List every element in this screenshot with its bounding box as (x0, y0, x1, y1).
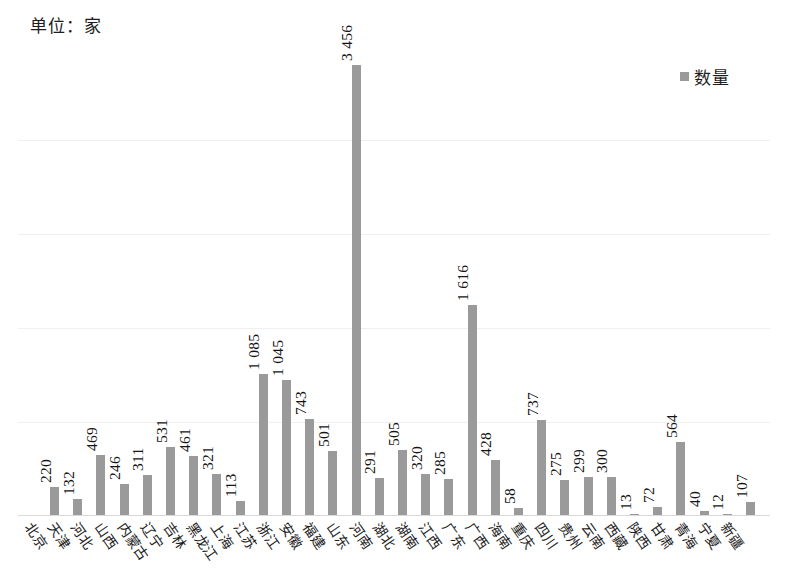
bar-group[interactable]: 12 (716, 46, 739, 516)
bar[interactable] (537, 420, 546, 516)
bar-value-label: 311 (129, 448, 147, 472)
bar[interactable] (328, 451, 337, 516)
bar-value-label: 275 (547, 452, 565, 476)
bar-value-label: 1 085 (245, 334, 263, 370)
bar-value-label: 246 (106, 456, 124, 480)
bar-value-label: 40 (686, 491, 704, 507)
bar[interactable] (607, 477, 616, 516)
bar-value-label: 72 (640, 487, 658, 503)
bar-group[interactable]: 72 (646, 46, 669, 516)
bar[interactable] (143, 475, 152, 516)
bar-value-label: 1 616 (454, 265, 472, 301)
bar-group[interactable]: 564 (669, 46, 692, 516)
bar[interactable] (444, 479, 453, 516)
bar-value-label: 469 (83, 427, 101, 451)
bar-value-label: 13 (617, 494, 635, 510)
bar-group[interactable]: 1 045 (275, 46, 298, 516)
bar-value-label: 737 (524, 392, 542, 416)
bar-value-label: 113 (222, 474, 240, 498)
bar-group[interactable]: 3 456 (345, 46, 368, 516)
bar[interactable] (584, 477, 593, 516)
bar-value-label: 505 (385, 422, 403, 446)
bar-group[interactable]: 321 (205, 46, 228, 516)
bar[interactable] (236, 501, 245, 516)
bar-group[interactable]: 1 085 (252, 46, 275, 516)
bar-group[interactable]: 469 (89, 46, 112, 516)
bar[interactable] (189, 456, 198, 516)
bar-group[interactable]: 107 (739, 46, 762, 516)
bar[interactable] (352, 65, 361, 516)
bar[interactable] (305, 419, 314, 516)
bar-value-label: 501 (315, 422, 333, 446)
bar[interactable] (421, 474, 430, 516)
bar-value-label: 320 (408, 446, 426, 470)
bar[interactable] (746, 502, 755, 516)
bar-group[interactable]: 40 (693, 46, 716, 516)
bar-group[interactable]: 320 (414, 46, 437, 516)
plot-area: 2201324692463115314613211131 0851 045743… (18, 46, 770, 516)
bar-group[interactable]: 311 (136, 46, 159, 516)
bar[interactable] (212, 474, 221, 516)
bar-group[interactable]: 246 (113, 46, 136, 516)
bar-group[interactable]: 275 (553, 46, 576, 516)
x-tick-label: 新疆 (733, 518, 756, 538)
bar-value-label: 132 (60, 471, 78, 495)
bar-value-label: 299 (570, 449, 588, 473)
bar[interactable] (120, 484, 129, 516)
x-axis-labels: 北京天津河北山西内蒙古辽宁吉林黑龙江上海江苏浙江安徽福建山东河南湖北湖南江西广东… (18, 518, 770, 584)
bar-group[interactable]: 501 (321, 46, 344, 516)
bar-value-label: 285 (431, 451, 449, 475)
bar[interactable] (375, 478, 384, 516)
bar-value-label: 3 456 (338, 24, 356, 60)
bar[interactable] (166, 447, 175, 516)
bar-value-label: 1 045 (269, 339, 287, 375)
bar-group[interactable]: 13 (623, 46, 646, 516)
bar-group[interactable]: 428 (484, 46, 507, 516)
bar-group[interactable]: 58 (507, 46, 530, 516)
unit-caption: 单位：家 (30, 12, 102, 37)
bar-value-label: 531 (153, 419, 171, 443)
bar-series: 2201324692463115314613211131 0851 045743… (18, 46, 770, 516)
bar-value-label: 743 (292, 391, 310, 415)
bar-value-label: 321 (199, 446, 217, 470)
bar[interactable] (676, 442, 685, 516)
bar-group[interactable]: 113 (229, 46, 252, 516)
bar[interactable] (73, 499, 82, 516)
bar-group[interactable]: 220 (43, 46, 66, 516)
bar-value-label: 300 (593, 449, 611, 473)
bar-value-label: 12 (709, 494, 727, 510)
bar[interactable] (282, 380, 291, 516)
bar-value-label: 107 (733, 474, 751, 498)
bar[interactable] (398, 450, 407, 516)
bar-group[interactable]: 737 (530, 46, 553, 516)
bar-value-label: 564 (663, 414, 681, 438)
bar-value-label: 58 (501, 488, 519, 504)
bar[interactable] (491, 460, 500, 516)
bar-group[interactable]: 300 (600, 46, 623, 516)
bar[interactable] (96, 455, 105, 516)
bar[interactable] (259, 374, 268, 516)
x-axis-line (18, 515, 770, 516)
bar[interactable] (468, 305, 477, 516)
bar[interactable] (560, 480, 569, 516)
bar[interactable] (50, 487, 59, 516)
bar-value-label: 428 (477, 432, 495, 456)
bar-group[interactable]: 299 (577, 46, 600, 516)
bar-value-label: 220 (37, 459, 55, 483)
bar-value-label: 291 (361, 450, 379, 474)
bar-value-label: 461 (176, 428, 194, 452)
bar-chart: 单位：家 数量 2201324692463115314613211131 085… (0, 0, 788, 584)
